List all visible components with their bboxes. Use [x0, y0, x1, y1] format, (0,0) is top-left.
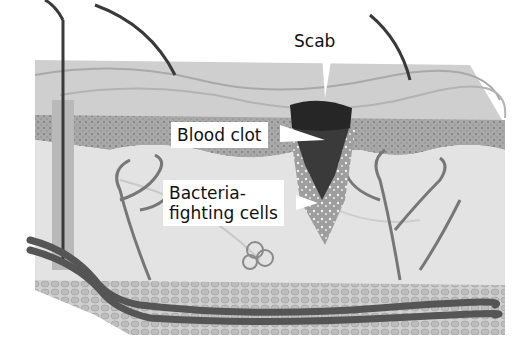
- scab: [290, 101, 352, 131]
- label-bacteria-fighting-cells: Bacteria- fighting cells: [163, 180, 284, 226]
- label-blood-clot: Blood clot: [171, 122, 268, 148]
- label-bacteria-line-1: Bacteria-: [169, 183, 278, 203]
- label-scab: Scab: [288, 28, 341, 54]
- label-bacteria-line-2: fighting cells: [169, 203, 278, 223]
- skin-surface: [35, 60, 505, 125]
- skin-cross-section-illustration: [0, 0, 520, 356]
